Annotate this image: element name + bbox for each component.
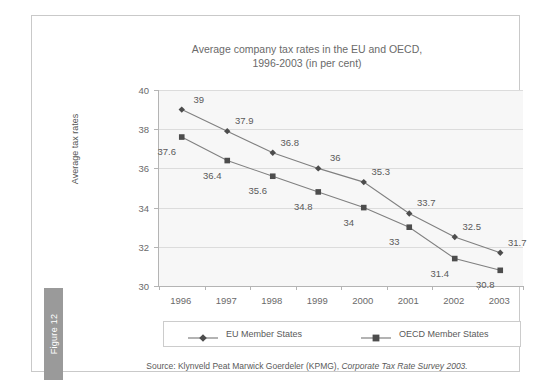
data-point-marker	[406, 224, 412, 230]
chart-legend: EU Member States OECD Member States	[163, 321, 521, 347]
point-value-label: 34.8	[294, 200, 313, 211]
point-value-label: 37.9	[235, 115, 254, 126]
chart-title-line-2: 1996-2003 (in per cent)	[92, 56, 522, 70]
legend-label-eu: EU Member States	[226, 329, 302, 339]
data-point-marker	[315, 189, 321, 195]
x-tick-mark	[432, 286, 433, 290]
square-marker-icon	[361, 329, 391, 339]
y-axis-title: Average tax rates	[70, 89, 80, 209]
data-point-marker	[224, 128, 230, 134]
x-tick-label: 2003	[476, 295, 522, 306]
x-tick-label: 2002	[431, 295, 477, 306]
y-tick-mark	[154, 286, 158, 287]
data-point-marker	[224, 158, 230, 164]
data-point-marker	[406, 210, 412, 216]
chart-title-line-1: Average company tax rates in the EU and …	[92, 42, 522, 56]
point-value-label: 33	[389, 236, 400, 247]
y-tick-mark	[154, 90, 158, 91]
x-tick-label: 1996	[158, 295, 204, 306]
legend-item-oecd: OECD Member States	[361, 329, 489, 339]
legend-label-oecd: OECD Member States	[399, 329, 489, 339]
data-point-marker	[361, 205, 367, 211]
data-point-marker	[315, 165, 321, 171]
chart-title: Average company tax rates in the EU and …	[92, 42, 522, 70]
source-note-title: Corporate Tax Rate Survey 2003.	[341, 361, 467, 371]
x-tick-mark	[205, 286, 206, 290]
series-plot	[159, 90, 523, 286]
y-tick-mark	[154, 129, 158, 130]
y-tick-label: 38	[123, 124, 149, 135]
x-tick-label: 2000	[340, 295, 386, 306]
y-tick-label: 32	[123, 241, 149, 252]
point-value-label: 36	[330, 152, 341, 163]
point-value-label: 35.3	[372, 166, 391, 177]
y-tick-label: 36	[123, 163, 149, 174]
point-value-label: 31.7	[508, 236, 527, 247]
x-tick-label: 2001	[385, 295, 431, 306]
series-line-oecd	[182, 137, 501, 270]
point-value-label: 32.5	[463, 221, 482, 232]
x-tick-label: 1998	[249, 295, 295, 306]
data-point-marker	[452, 234, 458, 240]
data-point-marker	[270, 173, 276, 179]
y-tick-mark	[154, 247, 158, 248]
plot-area: 3937.936.83635.333.732.531.737.636.435.6…	[158, 90, 523, 287]
source-note-prefix: Source: Klynveld Peat Marwick Goerdeler …	[146, 361, 339, 371]
figure-number-label: Figure 12	[49, 314, 59, 355]
data-point-marker	[361, 179, 367, 185]
point-value-label: 36.4	[203, 169, 222, 180]
x-tick-mark	[341, 286, 342, 290]
x-tick-mark	[478, 286, 479, 290]
point-value-label: 33.7	[417, 197, 436, 208]
x-tick-mark	[296, 286, 297, 290]
point-value-label: 34	[343, 216, 354, 227]
y-tick-mark	[154, 208, 158, 209]
data-point-marker	[179, 134, 185, 140]
point-value-label: 35.6	[249, 185, 268, 196]
data-point-marker	[497, 249, 503, 255]
figure-number-tab: Figure 12	[44, 288, 63, 380]
legend-item-eu: EU Member States	[188, 329, 302, 339]
point-value-label: 37.6	[158, 146, 177, 157]
x-tick-mark	[159, 286, 160, 290]
point-value-label: 36.8	[281, 136, 300, 147]
figure-frame: Average company tax rates in the EU and …	[31, 15, 520, 372]
data-point-marker	[179, 106, 185, 112]
diamond-marker-icon	[188, 329, 218, 339]
point-value-label: 39	[193, 93, 204, 104]
point-value-label: 31.4	[431, 267, 450, 278]
y-tick-mark	[154, 168, 158, 169]
x-tick-mark	[523, 286, 524, 290]
x-tick-label: 1997	[203, 295, 249, 306]
x-tick-mark	[387, 286, 388, 290]
point-value-label: 30.8	[476, 279, 495, 290]
y-tick-label: 40	[123, 85, 149, 96]
source-note: Source: Klynveld Peat Marwick Goerdeler …	[92, 361, 522, 371]
data-point-marker	[452, 256, 458, 262]
x-tick-mark	[250, 286, 251, 290]
y-tick-label: 30	[123, 281, 149, 292]
x-tick-label: 1999	[294, 295, 340, 306]
y-tick-label: 34	[123, 202, 149, 213]
data-point-marker	[270, 150, 276, 156]
data-point-marker	[497, 268, 503, 274]
